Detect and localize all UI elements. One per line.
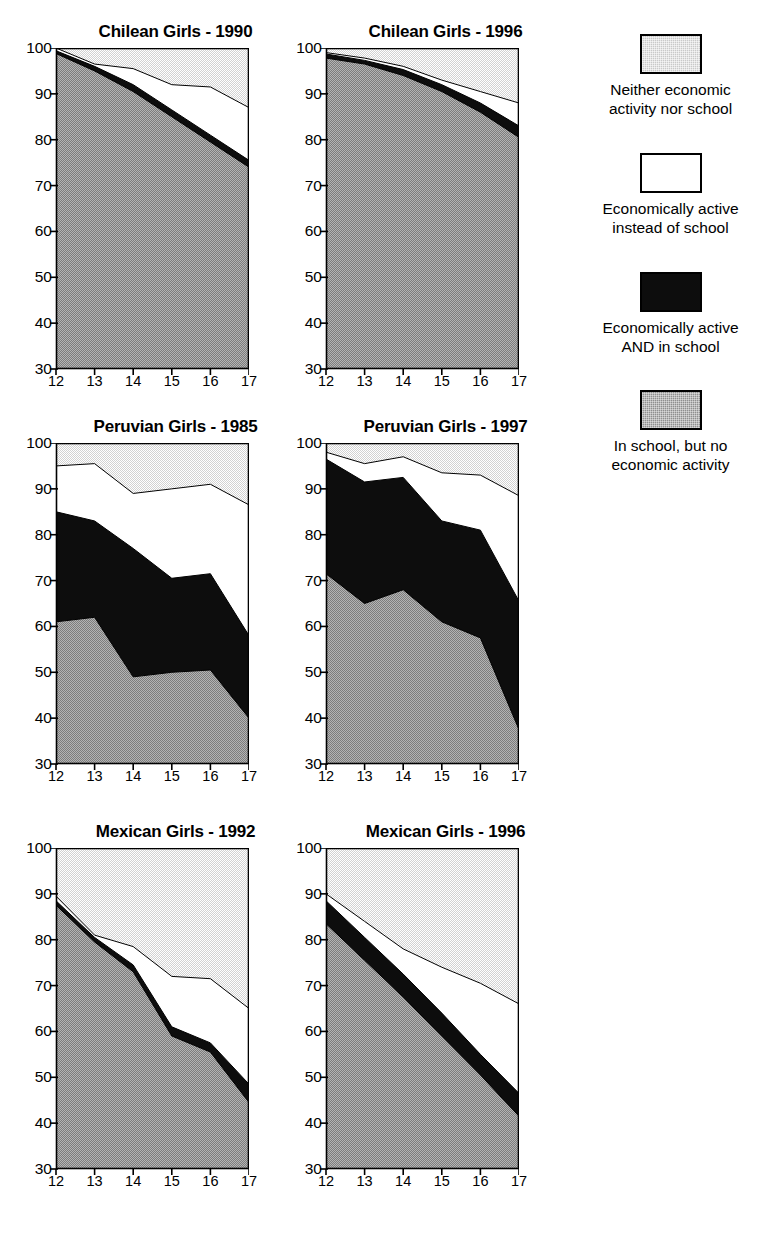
y-axis-tick-label: 100 (296, 40, 322, 56)
y-axis-tick-label: 100 (296, 435, 322, 451)
x-axis-tick-label: 13 (357, 769, 373, 784)
y-axis-tick-label: 100 (26, 40, 52, 56)
chart-title: Peruvian Girls - 1997 (286, 417, 565, 437)
x-axis-tick-label: 16 (202, 1174, 218, 1189)
x-axis-tick-label: 14 (125, 1174, 141, 1189)
x-axis-tick-label: 12 (48, 1174, 64, 1189)
legend-label-school_only: In school, but no economic activity (578, 437, 763, 475)
x-axis-tick-label: 15 (434, 1174, 450, 1189)
y-axis-tick-label: 60 (35, 1024, 52, 1040)
x-axis-tick-label: 14 (395, 374, 411, 389)
y-axis-tick-label: 70 (305, 978, 322, 994)
chart-title: Mexican Girls - 1992 (16, 822, 295, 842)
plot-svg-chilean-1996 (318, 48, 519, 377)
y-axis-tick-label: 40 (35, 710, 52, 726)
x-axis-tick-label: 17 (511, 769, 527, 784)
plot-svg-peruvian-1997 (318, 443, 519, 772)
y-axis-tick-label: 90 (305, 481, 322, 497)
chart-legend: Neither economic activity nor schoolEcon… (578, 34, 763, 475)
x-axis-tick-label: 17 (511, 1174, 527, 1189)
legend-entry-active_only: Economically active instead of school (578, 153, 763, 238)
x-axis-tick-label: 13 (87, 1174, 103, 1189)
y-axis-tick-label: 50 (305, 1070, 322, 1086)
chart-title: Mexican Girls - 1996 (286, 822, 565, 842)
x-axis-tick-label: 16 (202, 374, 218, 389)
plot-area: 30405060708090100121314151617 (326, 443, 519, 764)
y-axis-tick-label: 90 (305, 86, 322, 102)
x-axis-tick-label: 13 (357, 374, 373, 389)
plot-svg-mexican-1996 (318, 848, 519, 1177)
x-axis-tick-label: 17 (241, 374, 257, 389)
x-axis-tick-label: 12 (318, 769, 334, 784)
y-axis-tick-label: 40 (305, 710, 322, 726)
y-axis-tick-label: 90 (35, 481, 52, 497)
x-axis-tick-label: 17 (241, 1174, 257, 1189)
chart-title: Peruvian Girls - 1985 (16, 417, 295, 437)
y-axis-tick-label: 70 (35, 573, 52, 589)
x-axis-tick-label: 17 (511, 374, 527, 389)
x-axis-tick-label: 12 (318, 1174, 334, 1189)
legend-entry-neither: Neither economic activity nor school (578, 34, 763, 119)
y-axis-tick-label: 60 (305, 619, 322, 635)
legend-swatch-dark-gray (640, 390, 702, 430)
y-axis-tick-label: 40 (305, 315, 322, 331)
plot-area: 30405060708090100121314151617 (56, 443, 249, 764)
x-axis-tick-label: 13 (87, 374, 103, 389)
y-axis-tick-label: 50 (35, 665, 52, 681)
y-axis-tick-label: 70 (305, 573, 322, 589)
plot-area: 30405060708090100121314151617 (56, 48, 249, 369)
y-axis-tick-label: 80 (35, 527, 52, 543)
y-axis-tick-label: 50 (35, 1070, 52, 1086)
y-axis-tick-label: 40 (35, 315, 52, 331)
legend-swatch-light-gray (640, 34, 702, 74)
x-axis-tick-label: 12 (48, 374, 64, 389)
y-axis-tick-label: 70 (35, 178, 52, 194)
plot-area: 30405060708090100121314151617 (326, 48, 519, 369)
x-axis-tick-label: 16 (472, 374, 488, 389)
y-axis-tick-label: 70 (35, 978, 52, 994)
legend-label-active_school: Economically active AND in school (578, 319, 763, 357)
x-axis-tick-label: 17 (241, 769, 257, 784)
x-axis-tick-label: 16 (472, 1174, 488, 1189)
x-axis-tick-label: 14 (125, 374, 141, 389)
x-axis-tick-label: 14 (395, 1174, 411, 1189)
x-axis-tick-label: 13 (87, 769, 103, 784)
legend-entry-active_school: Economically active AND in school (578, 272, 763, 357)
x-axis-tick-label: 15 (434, 374, 450, 389)
y-axis-tick-label: 80 (305, 932, 322, 948)
x-axis-tick-label: 16 (472, 769, 488, 784)
plot-svg-mexican-1992 (48, 848, 249, 1177)
chart-title: Chilean Girls - 1990 (16, 22, 295, 42)
x-axis-tick-label: 15 (164, 769, 180, 784)
y-axis-tick-label: 50 (305, 270, 322, 286)
chart-title: Chilean Girls - 1996 (286, 22, 565, 42)
y-axis-tick-label: 60 (35, 224, 52, 240)
y-axis-tick-label: 40 (305, 1115, 322, 1131)
plot-area: 30405060708090100121314151617 (326, 848, 519, 1169)
y-axis-tick-label: 80 (35, 932, 52, 948)
x-axis-tick-label: 13 (357, 1174, 373, 1189)
y-axis-tick-label: 100 (26, 435, 52, 451)
y-axis-tick-label: 70 (305, 178, 322, 194)
y-axis-tick-label: 80 (305, 527, 322, 543)
y-axis-tick-label: 50 (35, 270, 52, 286)
y-axis-tick-label: 60 (305, 224, 322, 240)
plot-svg-peruvian-1985 (48, 443, 249, 772)
y-axis-tick-label: 80 (35, 132, 52, 148)
plot-area: 30405060708090100121314151617 (56, 848, 249, 1169)
y-axis-tick-label: 90 (35, 886, 52, 902)
y-axis-tick-label: 100 (26, 840, 52, 856)
x-axis-tick-label: 14 (125, 769, 141, 784)
legend-entry-school_only: In school, but no economic activity (578, 390, 763, 475)
y-axis-tick-label: 40 (35, 1115, 52, 1131)
y-axis-tick-label: 90 (305, 886, 322, 902)
y-axis-tick-label: 100 (296, 840, 322, 856)
x-axis-tick-label: 14 (395, 769, 411, 784)
y-axis-tick-label: 90 (35, 86, 52, 102)
legend-label-neither: Neither economic activity nor school (578, 81, 763, 119)
figure-stacked-area-charts: Chilean Girls - 199030405060708090100121… (0, 0, 763, 1254)
x-axis-tick-label: 15 (434, 769, 450, 784)
x-axis-tick-label: 15 (164, 374, 180, 389)
y-axis-tick-label: 60 (35, 619, 52, 635)
y-axis-tick-label: 60 (305, 1024, 322, 1040)
